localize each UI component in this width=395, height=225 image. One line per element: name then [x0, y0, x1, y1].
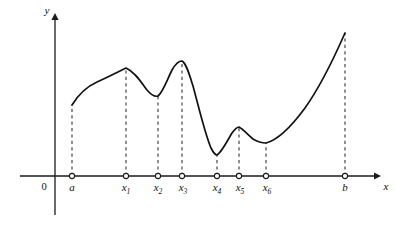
tick-label-x1: x1 — [121, 181, 131, 196]
tick-dot-x6 — [263, 173, 268, 178]
tick-dot-x3 — [179, 173, 184, 178]
x-axis-arrow-icon — [374, 172, 381, 179]
tick-label-b: b — [342, 181, 348, 193]
tick-label-x6-sub: 6 — [268, 187, 272, 196]
tick-label-a: a — [69, 181, 75, 193]
tick-label-x5: x5 — [235, 181, 245, 196]
tick-dot-b — [342, 173, 347, 178]
tick-label-x3: x3 — [178, 181, 188, 196]
tick-label-x5-sub: 5 — [241, 187, 245, 196]
graph-canvas: 0 y x a x1 x2 x3 x4 x5 x6 — [0, 0, 395, 225]
tick-dot-x2 — [155, 173, 160, 178]
tick-label-x2: x2 — [153, 181, 163, 196]
tick-label-x4-sub: 4 — [218, 187, 222, 196]
function-curve — [72, 33, 345, 155]
tick-dot-x1 — [123, 173, 128, 178]
tick-dot-x4 — [214, 173, 219, 178]
tick-labels-group: a x1 x2 x3 x4 x5 x6 b — [69, 181, 348, 196]
origin-label: 0 — [41, 181, 46, 192]
tick-dot-a — [69, 173, 74, 178]
drop-lines-group — [72, 33, 345, 176]
tick-label-x4: x4 — [212, 181, 222, 196]
tick-dot-x5 — [236, 173, 241, 178]
tick-label-x6: x6 — [262, 181, 272, 196]
tick-label-x2-sub: 2 — [159, 187, 163, 196]
function-graph-figure: 0 y x a x1 x2 x3 x4 x5 x6 — [0, 0, 395, 225]
tick-label-x3-sub: 3 — [183, 187, 188, 196]
y-axis-arrow-icon — [51, 13, 58, 20]
x-axis-label: x — [383, 180, 389, 192]
y-axis-label: y — [44, 4, 50, 16]
tick-label-x1-sub: 1 — [127, 187, 131, 196]
